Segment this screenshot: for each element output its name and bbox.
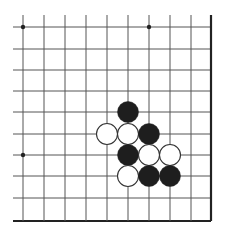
black-stone[interactable] bbox=[139, 166, 160, 187]
star-point-icon bbox=[147, 25, 151, 29]
black-stone[interactable] bbox=[118, 102, 139, 123]
go-board[interactable] bbox=[0, 0, 227, 236]
star-point-icon bbox=[21, 153, 25, 157]
white-stone[interactable] bbox=[118, 124, 139, 145]
white-stone[interactable] bbox=[139, 145, 160, 166]
board-grid bbox=[13, 15, 211, 221]
white-stone[interactable] bbox=[118, 166, 139, 187]
black-stone[interactable] bbox=[160, 166, 181, 187]
stones-layer[interactable] bbox=[97, 102, 181, 187]
star-point-icon bbox=[21, 25, 25, 29]
white-stone[interactable] bbox=[97, 124, 118, 145]
black-stone[interactable] bbox=[118, 145, 139, 166]
black-stone[interactable] bbox=[139, 124, 160, 145]
go-board-canvas[interactable] bbox=[0, 0, 227, 236]
white-stone[interactable] bbox=[160, 145, 181, 166]
